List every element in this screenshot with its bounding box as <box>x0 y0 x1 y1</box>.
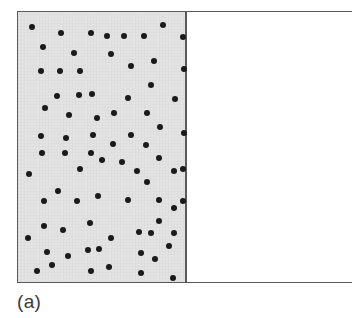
gas-particle <box>63 135 70 142</box>
gas-particle <box>58 30 65 37</box>
gas-particle <box>181 66 188 73</box>
gas-particle <box>66 112 73 119</box>
gas-particle <box>171 205 178 212</box>
gas-particle <box>104 33 111 40</box>
gas-particle <box>77 68 84 75</box>
gas-particle <box>95 193 102 200</box>
gas-particle <box>128 132 135 139</box>
gas-particle <box>125 95 132 102</box>
gas-particle <box>110 141 117 148</box>
gas-particle <box>160 22 167 29</box>
gas-particle <box>85 247 92 254</box>
gas-particle <box>171 230 178 237</box>
gas-particle <box>136 229 143 236</box>
gas-particle <box>89 91 96 98</box>
gas-particle <box>180 34 187 41</box>
gas-particle <box>57 68 64 75</box>
gas-particle <box>166 243 173 250</box>
gas-particle <box>87 220 94 227</box>
gas-particle <box>134 168 141 175</box>
gas-particle <box>144 110 151 117</box>
gas-particle <box>170 275 177 282</box>
gas-particle <box>55 188 62 195</box>
gas-particle <box>148 230 155 237</box>
gas-particle <box>41 198 48 205</box>
gas-particle <box>25 235 32 242</box>
gas-particle <box>144 179 151 186</box>
gas-particle <box>180 166 187 173</box>
gas-particle <box>125 197 132 204</box>
gas-particle <box>151 58 158 65</box>
gas-particle <box>62 150 69 157</box>
gas-particle <box>76 92 83 99</box>
gas-particle-layer <box>18 12 351 282</box>
gas-particle <box>65 253 72 260</box>
gas-particle <box>143 142 150 149</box>
gas-container-box <box>17 11 352 283</box>
gas-particle <box>108 235 115 242</box>
gas-particle <box>152 256 159 263</box>
gas-particle <box>38 68 45 75</box>
gas-particle <box>49 262 56 269</box>
gas-particle <box>88 30 95 37</box>
gas-particle <box>138 250 145 257</box>
gas-particle <box>38 133 45 140</box>
gas-particle <box>156 155 163 162</box>
gas-particle <box>54 93 61 100</box>
gas-particle <box>29 24 36 31</box>
gas-particle <box>42 105 49 112</box>
gas-particle <box>99 157 106 164</box>
gas-particle <box>172 96 179 103</box>
gas-particle <box>157 124 164 131</box>
gas-particle <box>41 223 48 230</box>
gas-particle <box>171 168 178 175</box>
figure-panel-a: (a) <box>0 0 364 318</box>
gas-particle <box>106 264 113 271</box>
gas-particle <box>88 268 95 275</box>
gas-particle <box>26 171 33 178</box>
gas-particle <box>94 115 101 122</box>
gas-particle <box>181 130 188 137</box>
panel-label: (a) <box>17 290 41 314</box>
gas-particle <box>74 198 81 205</box>
gas-particle <box>128 63 135 70</box>
gas-particle <box>90 132 97 139</box>
gas-particle <box>111 110 118 117</box>
gas-particle <box>34 268 41 275</box>
gas-particle <box>148 82 155 89</box>
gas-particle <box>71 50 78 57</box>
gas-particle <box>88 150 95 157</box>
gas-particle <box>39 150 46 157</box>
gas-particle <box>60 227 67 234</box>
gas-particle <box>180 198 187 205</box>
gas-particle <box>121 33 128 40</box>
gas-particle <box>156 218 163 225</box>
gas-particle <box>138 270 145 277</box>
gas-particle <box>44 249 51 256</box>
gas-particle <box>96 246 103 253</box>
gas-particle <box>156 197 163 204</box>
gas-particle <box>108 51 115 58</box>
gas-particle <box>119 159 126 166</box>
gas-particle <box>40 44 47 51</box>
gas-particle <box>77 166 84 173</box>
gas-particle <box>141 33 148 40</box>
